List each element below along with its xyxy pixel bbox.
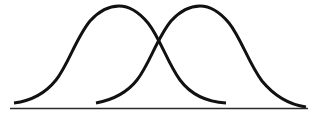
- bell-curve-figure: [0, 0, 321, 117]
- figure-canvas: [0, 0, 321, 117]
- figure-background: [0, 0, 321, 117]
